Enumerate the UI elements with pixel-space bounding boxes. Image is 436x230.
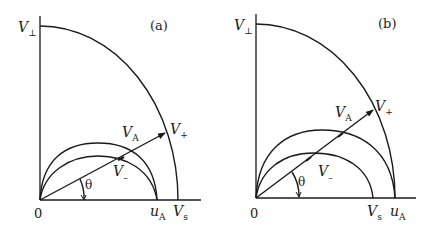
- phase-velocity-polar-diagram: (a) V⊥ V+ VA V– θ 0 uA Vs (b) V⊥ V+ VA V…: [0, 0, 436, 230]
- panel-b-intersection-mark-2: [338, 133, 343, 137]
- panel-a-v-a-label: VA: [122, 124, 139, 143]
- panel-b-slow-mode-curve: [256, 153, 373, 198]
- panel-a: (a) V⊥ V+ VA V– θ 0 uA Vs: [18, 16, 201, 222]
- panel-b-v-minus-label: V–: [318, 163, 333, 183]
- panel-a-origin-label: 0: [34, 206, 42, 221]
- panel-b-theta-label: θ: [298, 175, 305, 189]
- panel-b-intersection-mark-1: [306, 157, 311, 161]
- panel-a-v-minus-label: V–: [113, 163, 128, 183]
- panel-a-fast-mode-curve: [40, 26, 178, 200]
- panel-a-tag: (a): [150, 18, 168, 33]
- panel-a-v-plus-label: V+: [170, 121, 188, 140]
- panel-b-u-a-label: uA: [390, 203, 406, 222]
- panel-b: (b) V⊥ V+ VA V– θ 0 Vs uA: [234, 14, 416, 222]
- panel-a-slow-mode-curve: [40, 156, 157, 200]
- panel-b-wave-vector-arrow: [256, 110, 373, 198]
- panel-b-v-s-label: Vs: [367, 203, 382, 222]
- panel-b-origin-label: 0: [250, 206, 258, 221]
- panel-a-theta-label: θ: [85, 178, 92, 192]
- panel-b-tag: (b): [378, 16, 396, 31]
- panel-a-v-perp-label: V⊥: [18, 19, 37, 38]
- panel-a-v-s-label: Vs: [173, 203, 188, 222]
- panel-b-v-perp-label: V⊥: [234, 17, 253, 36]
- panel-a-u-a-label: uA: [150, 203, 166, 222]
- panel-b-v-a-label: VA: [335, 104, 352, 123]
- panel-a-alfven-curve: [40, 143, 157, 200]
